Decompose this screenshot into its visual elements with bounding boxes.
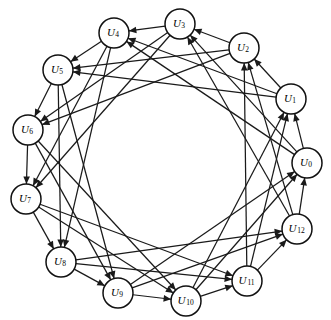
- edge-arrowhead: [63, 239, 69, 247]
- edge-arrowhead: [275, 233, 283, 239]
- node-label-subscript: 5: [59, 67, 63, 76]
- edge-arrowhead: [163, 295, 171, 302]
- edge-arrowhead: [57, 239, 64, 247]
- graph-node-u7[interactable]: U7: [11, 184, 41, 214]
- edge-arrowhead: [23, 176, 30, 184]
- graph-node-u9[interactable]: U9: [103, 278, 133, 308]
- graph-node-u8[interactable]: U8: [46, 247, 76, 277]
- graph-node-u3[interactable]: U3: [165, 9, 195, 39]
- edge-arrowhead: [71, 55, 79, 62]
- edge-arrowhead: [194, 29, 202, 35]
- graph-node-u10[interactable]: U10: [171, 286, 201, 316]
- graph-node-u1[interactable]: U1: [276, 84, 306, 114]
- graph-edge: [58, 85, 61, 247]
- edge-arrowhead: [241, 63, 248, 71]
- edge-arrowhead: [293, 114, 299, 122]
- graph-edge: [73, 72, 276, 97]
- edge-arrowhead: [300, 178, 307, 186]
- node-label-subscript: 6: [29, 127, 33, 136]
- graph-node-u2[interactable]: U2: [229, 33, 259, 63]
- node-label-subscript: 2: [245, 45, 249, 54]
- circulant-digraph-figure: U0U1U2U3U4U5U6U7U8U9U10U11U12: [0, 0, 331, 320]
- node-label-subscript: 12: [297, 226, 305, 235]
- edge-arrowhead: [247, 62, 253, 70]
- graph-node-u4[interactable]: U4: [99, 18, 129, 48]
- edge-arrowhead: [73, 70, 81, 77]
- edge-arrowhead: [129, 27, 137, 34]
- graph-node-u5[interactable]: U5: [43, 55, 73, 85]
- node-label-subscript: 3: [181, 21, 185, 30]
- node-label-base: U: [178, 294, 187, 306]
- node-label-subscript: 10: [186, 298, 194, 307]
- node-label-subscript: 11: [247, 278, 254, 287]
- node-label-subscript: 1: [292, 96, 296, 105]
- node-label-base: U: [289, 222, 298, 234]
- graph-node-u12[interactable]: U12: [282, 214, 312, 244]
- node-label-subscript: 4: [115, 30, 119, 39]
- graph-canvas: U0U1U2U3U4U5U6U7U8U9U10U11U12: [0, 0, 331, 320]
- graph-node-u11[interactable]: U11: [232, 266, 262, 296]
- node-label-subscript: 0: [308, 160, 312, 169]
- node-label-subscript: 7: [27, 196, 31, 205]
- node-label-base: U: [239, 274, 248, 286]
- graph-node-u0[interactable]: U0: [292, 148, 322, 178]
- edge-arrowhead: [224, 275, 232, 282]
- node-label-subscript: 9: [119, 290, 123, 299]
- edge-arrowhead: [225, 270, 233, 276]
- edge-arrowhead: [73, 64, 81, 71]
- edge-arrowhead: [225, 285, 233, 291]
- graph-node-u6[interactable]: U6: [13, 115, 43, 145]
- node-label-subscript: 8: [62, 259, 66, 268]
